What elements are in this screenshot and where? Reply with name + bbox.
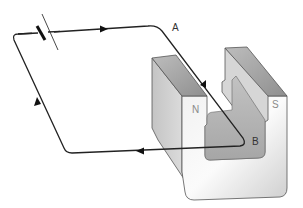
- current-arrow-diagonal: [200, 80, 206, 88]
- current-arrow-left: [34, 97, 41, 106]
- point-a-label: A: [172, 22, 179, 33]
- south-pole-label: S: [272, 99, 279, 110]
- current-arrow-top: [100, 26, 108, 33]
- battery: [18, 14, 60, 50]
- current-arrow-bottom: [136, 148, 144, 155]
- horseshoe-magnet: N S: [152, 47, 287, 200]
- diagram-canvas: N S A B: [0, 0, 303, 208]
- north-pole-label: N: [192, 104, 199, 115]
- wire-battery-right: [48, 31, 60, 32]
- point-b-label: B: [252, 136, 259, 147]
